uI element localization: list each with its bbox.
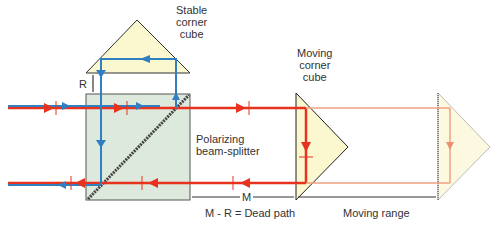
r-label: R [79, 78, 87, 90]
red-arrow-right-1 [44, 103, 54, 113]
stable-cube-label: Stablecornercube [176, 4, 207, 40]
moving-range-label: Moving range [343, 207, 410, 219]
red-arrow-left-3 [240, 178, 250, 188]
red-arrow-right-3 [236, 103, 246, 113]
moving-cube-far-position [438, 93, 490, 200]
beam-splitter-label: Polarizingbeam-splitter [196, 133, 260, 157]
m-label: M [240, 191, 253, 203]
red-arrow-left-1 [75, 178, 85, 188]
dead-path-label: M - R = Dead path [205, 207, 295, 219]
moving-cube-label: Movingcornercube [297, 47, 332, 83]
blue-arrow-down-1 [96, 70, 106, 78]
